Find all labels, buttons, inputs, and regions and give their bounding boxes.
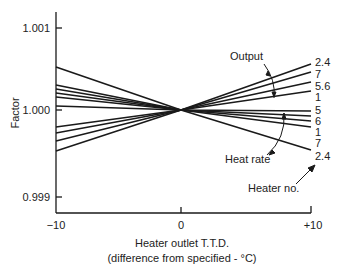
right-label-4: 1 <box>315 91 321 103</box>
x-axis-subtitle: (difference from specified - °C) <box>107 252 256 264</box>
ytick-label-1000: 1.000 <box>22 104 50 116</box>
heat-rate-arrow <box>267 113 286 155</box>
heater-ttd-factor-chart: 1.001 1.000 0.999 −10 0 +10 Factor Heate… <box>0 0 338 270</box>
xtick-label-0: 0 <box>178 219 184 231</box>
right-label-2: 7 <box>315 68 321 80</box>
heat-rate-annotation: Heat rate <box>225 153 270 165</box>
right-label-9: 2.4 <box>315 150 330 162</box>
ytick-label-0999: 0.999 <box>22 191 50 203</box>
y-axis-title: Factor <box>9 97 21 129</box>
xtick-label-m10: −10 <box>47 219 66 231</box>
heater-no-arrow <box>296 165 315 184</box>
x-axis-title: Heater outlet T.T.D. <box>135 237 229 249</box>
output-annotation: Output <box>230 50 263 62</box>
data-lines <box>56 64 311 151</box>
output-arrow <box>264 64 276 98</box>
ytick-label-1001: 1.001 <box>22 22 50 34</box>
right-label-8: 7 <box>315 137 321 149</box>
heater-no-annotation: Heater no. <box>248 182 299 194</box>
xtick-label-p10: +10 <box>304 219 323 231</box>
heater-number-labels: 2.4 7 5.6 1 5 6 1 7 2.4 <box>315 56 330 162</box>
right-label-1: 2.4 <box>315 56 330 68</box>
